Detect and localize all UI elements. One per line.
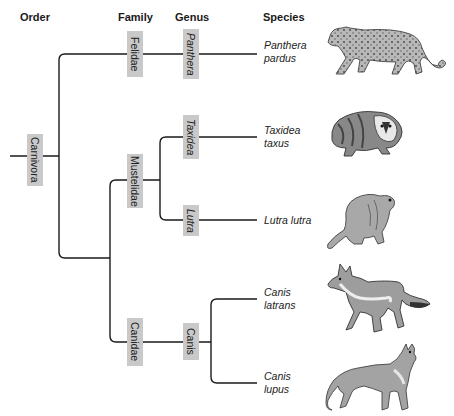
order-text: Carnivora — [27, 137, 43, 183]
genus-label-panthera: Panthera — [183, 29, 199, 79]
genus-label-canis: Canis — [183, 323, 199, 360]
species-label-panthera-pardus: Panthera pardus — [264, 39, 307, 65]
family-label-felidae: Felidae — [127, 31, 143, 77]
species-text: taxus — [264, 137, 300, 150]
genus-text: Lutra — [183, 209, 199, 233]
genus-text: Canis — [183, 328, 199, 355]
family-label-mustelidae: Mustelidae — [127, 154, 143, 208]
species-label-taxidea-taxus: Taxidea taxus — [264, 124, 300, 150]
genus-text: Panthera — [183, 33, 199, 76]
species-text: pardus — [264, 52, 307, 65]
family-text: Mustelidae — [127, 156, 143, 207]
species-label-canis-latrans: Canis latrans — [264, 286, 296, 312]
species-text: Taxidea — [264, 124, 300, 137]
family-text: Canidae — [127, 322, 143, 361]
order-label-carnivora: Carnivora — [27, 134, 43, 186]
family-label-canidae: Canidae — [127, 318, 143, 366]
genus-label-taxidea: Taxidea — [183, 115, 199, 159]
species-text: Panthera — [264, 39, 307, 52]
species-text: lupus — [264, 383, 291, 396]
species-text: Canis — [264, 370, 291, 383]
otter-icon — [324, 190, 400, 254]
species-text: Lutra lutra — [264, 214, 311, 227]
species-text: latrans — [264, 299, 296, 312]
genus-label-lutra: Lutra — [183, 205, 199, 236]
wolf-icon — [324, 340, 436, 416]
coyote-icon — [326, 262, 434, 336]
family-text: Felidae — [127, 37, 143, 71]
species-text: Canis — [264, 286, 296, 299]
badger-icon — [326, 108, 410, 164]
species-label-lutra-lutra: Lutra lutra — [264, 214, 311, 227]
genus-text: Taxidea — [183, 119, 199, 155]
species-label-canis-lupus: Canis lupus — [264, 370, 291, 396]
leopard-icon — [324, 22, 452, 82]
